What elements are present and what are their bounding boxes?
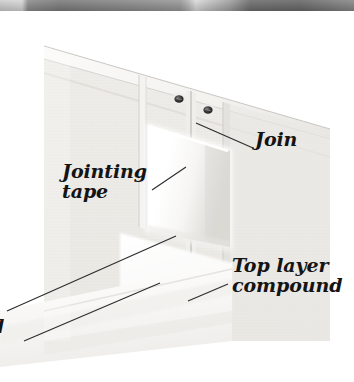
callout-label-top-layer-compound: Top layer compound [232,255,342,295]
board-vertical-edge-left [139,75,146,229]
photo-scene [0,11,347,371]
callout-label-jointing-tape: Jointing tape [62,161,147,201]
callout-label-clipped-partial: d [0,316,4,336]
tape-right-shading [205,143,230,247]
figure-container: Join Jointing tape Top layer compound d [0,0,354,382]
callout-label-join: Join [255,129,297,149]
cropped-image-strip-above [0,0,354,11]
strip-shading [0,0,354,11]
